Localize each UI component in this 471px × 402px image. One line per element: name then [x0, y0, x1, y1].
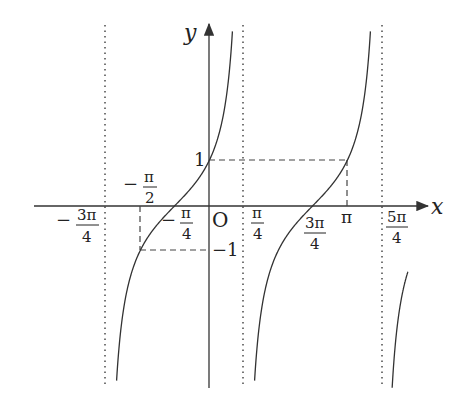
y-tick-neg-1: −1 [212, 239, 239, 260]
svg-text:π: π [181, 204, 191, 222]
svg-text:2: 2 [145, 189, 155, 207]
svg-text:4: 4 [310, 235, 320, 253]
x-tick-neg-pi-4: − π 4 [161, 204, 193, 243]
x-tick-neg-3pi-4: − 3π 4 [56, 206, 99, 246]
svg-text:3π: 3π [77, 206, 97, 224]
svg-text:5π: 5π [387, 208, 407, 226]
graph-canvas: y x O 1 −1 − 3π 4 − π 2 − π 4 π 4 3π 4 π… [0, 0, 471, 402]
y-tick-1: 1 [194, 149, 205, 170]
svg-text:4: 4 [253, 225, 263, 243]
x-tick-3pi-4: 3π 4 [304, 214, 326, 253]
svg-text:4: 4 [182, 225, 192, 243]
svg-text:4: 4 [392, 229, 402, 247]
svg-text:−: − [161, 209, 176, 230]
x-tick-pi: π [341, 207, 352, 227]
svg-text:−: − [123, 173, 138, 194]
x-tick-5pi-4: 5π 4 [386, 208, 408, 247]
origin-label: O [212, 208, 228, 232]
tangent-graph: y x O 1 −1 − 3π 4 − π 2 − π 4 π 4 3π 4 π… [0, 0, 471, 402]
x-tick-pi-4: π 4 [251, 204, 264, 243]
curve-branch-far-right [392, 272, 408, 388]
svg-text:π: π [144, 168, 154, 186]
x-tick-neg-pi-2: − π 2 [123, 168, 157, 207]
y-axis-label: y [183, 20, 197, 45]
x-axis-label: x [431, 194, 444, 219]
svg-text:4: 4 [82, 228, 92, 246]
svg-text:3π: 3π [305, 214, 325, 232]
svg-text:π: π [252, 204, 262, 222]
svg-text:−: − [56, 209, 71, 230]
